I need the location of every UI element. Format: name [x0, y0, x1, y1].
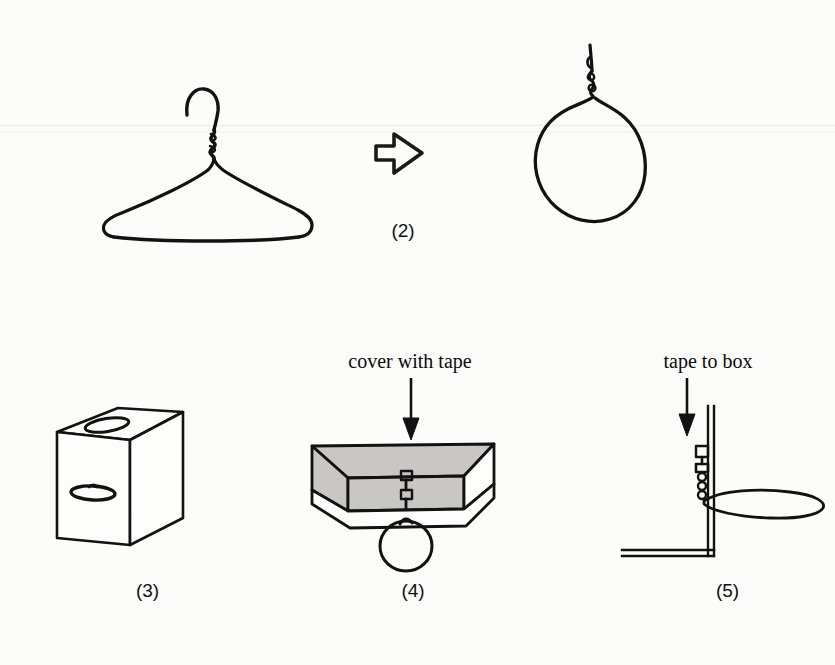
wire-twist-ring-c	[698, 491, 706, 499]
caption-tape-to-box: tape to box	[608, 350, 808, 373]
box-front-face	[57, 432, 130, 545]
tape-patch-icon	[696, 446, 708, 457]
transform-arrow-container	[372, 126, 434, 182]
step-3-label: (3)	[45, 580, 250, 602]
figure-page: (2)	[0, 0, 835, 665]
hanging-wire-loop	[380, 521, 432, 571]
step-1-hanger-illustration	[80, 60, 340, 250]
hanger-right-shoulder	[214, 159, 312, 237]
wire-twist-ring-a	[698, 473, 706, 481]
block-arrow-right-icon	[372, 126, 434, 182]
tape-patch-icon-lower	[696, 464, 708, 472]
wire-loop-shape	[535, 97, 645, 222]
step-5-crosssection-illustration	[620, 378, 835, 568]
open-box-drawing	[298, 378, 528, 568]
loop-twist-ring-a	[588, 74, 594, 80]
loop-edge-on-oval	[704, 490, 824, 518]
arrow-down-icon	[403, 378, 419, 440]
step-2-label: (2)	[372, 220, 434, 242]
wire-twist-ring-b	[698, 482, 706, 490]
bent-loop-drawing	[500, 35, 690, 250]
step-4-box-illustration	[298, 378, 528, 568]
step-5-label: (5)	[620, 580, 835, 602]
cross-section-drawing	[620, 378, 835, 568]
caption-cover-with-tape: cover with tape	[300, 350, 520, 373]
hanger-left-shoulder	[103, 159, 214, 237]
hanger-hook-icon	[187, 89, 218, 130]
arrow-down-icon	[679, 378, 695, 436]
step-2-loop-illustration	[500, 35, 690, 250]
step-3-box-illustration	[45, 400, 250, 565]
box-with-slots-drawing	[45, 400, 250, 565]
hanger-drawing	[80, 60, 340, 250]
step-4-label: (4)	[298, 580, 528, 602]
hanger-bottom-bar	[114, 237, 299, 241]
